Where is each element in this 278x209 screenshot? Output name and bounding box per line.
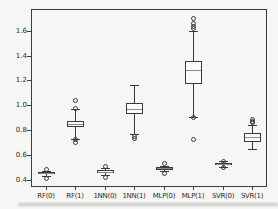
y-tick-label: 1.2: [1, 76, 27, 84]
outlier-point: [44, 167, 49, 172]
median-line: [98, 172, 113, 173]
outlier-point: [162, 171, 167, 176]
median-line: [245, 137, 260, 138]
box-iqr: [185, 61, 202, 84]
scan-artifact: [18, 203, 278, 206]
whisker-cap-bottom: [248, 149, 257, 150]
outlier-point: [191, 137, 196, 142]
y-tick-label: 1.0: [1, 101, 27, 109]
median-line: [127, 109, 142, 110]
x-tick-mark: [46, 187, 47, 190]
median-line: [68, 124, 83, 125]
y-tick-label: 0.4: [1, 176, 27, 184]
x-tick-label: SVR(1): [230, 192, 274, 200]
y-tick-label: 0.8: [1, 126, 27, 134]
x-tick-mark: [164, 187, 165, 190]
y-tick-mark: [27, 80, 31, 81]
y-tick-mark: [27, 56, 31, 57]
y-tick-label: 1.4: [1, 52, 27, 60]
outlier-point: [103, 164, 108, 169]
outlier-point: [191, 26, 196, 31]
plot-area: [31, 9, 267, 187]
y-tick-label: 0.6: [1, 151, 27, 159]
whisker-cap-top: [130, 85, 139, 86]
boxplot-figure: 0.40.60.81.01.21.41.6RF(0)RF(1)1NN(0)1NN…: [0, 0, 278, 209]
y-tick-mark: [27, 105, 31, 106]
x-tick-mark: [75, 187, 76, 190]
median-line: [186, 70, 201, 71]
whisker-cap-top: [189, 31, 198, 32]
outlier-point: [221, 159, 226, 164]
outlier-point: [73, 98, 78, 103]
outlier-point: [221, 165, 226, 170]
x-tick-mark: [134, 187, 135, 190]
x-tick-mark: [252, 187, 253, 190]
x-tick-mark: [105, 187, 106, 190]
outlier-point: [132, 136, 137, 141]
y-tick-label: 1.6: [1, 27, 27, 35]
y-tick-mark: [27, 31, 31, 32]
y-tick-mark: [27, 155, 31, 156]
y-tick-mark: [27, 130, 31, 131]
median-line: [157, 168, 172, 169]
outlier-point: [73, 140, 78, 145]
y-tick-mark: [27, 180, 31, 181]
x-tick-mark: [193, 187, 194, 190]
median-line: [39, 173, 54, 174]
outlier-point: [103, 175, 108, 180]
outlier-point: [191, 115, 196, 120]
outlier-point: [162, 161, 167, 166]
whisker-cap-top: [248, 125, 257, 126]
outlier-point: [250, 120, 255, 125]
outlier-point: [44, 176, 49, 181]
outlier-point: [73, 106, 78, 111]
x-tick-mark: [223, 187, 224, 190]
